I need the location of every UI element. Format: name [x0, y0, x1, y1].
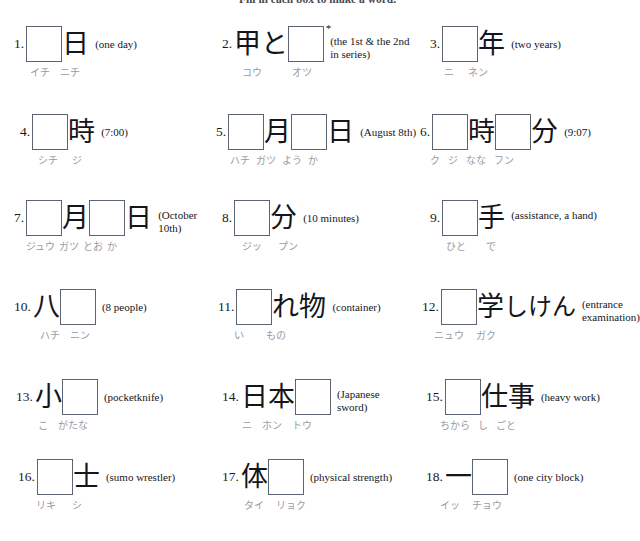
answer-box[interactable]	[442, 200, 478, 236]
answer-box[interactable]	[295, 379, 331, 415]
exercise-cell: 1.日(one day)イチニチ	[0, 14, 204, 80]
answer-box[interactable]	[234, 200, 270, 236]
english-gloss: (two years)	[511, 26, 561, 51]
exercise-line: 10.八(8 people)	[14, 289, 147, 325]
item-number: 1.	[14, 26, 24, 62]
furigana-reading: なな	[466, 155, 486, 167]
furigana-reading: ジ	[448, 155, 458, 167]
answer-box[interactable]	[445, 379, 481, 415]
answer-box[interactable]	[442, 26, 478, 62]
exercise-item: 2.甲と*(the 1st & the 2nd in series)コウオツ	[204, 14, 412, 79]
english-gloss: (9:07)	[564, 114, 591, 139]
exercise-line: 9.手(assistance, a hand)	[430, 200, 597, 236]
exercise-item: 6.時分(9:07)クジななフン	[412, 102, 591, 167]
exercise-line: 1.日(one day)	[14, 26, 137, 62]
printed-character: 一	[445, 459, 472, 495]
glyph-run: 体	[241, 459, 304, 495]
item-number: 9.	[430, 200, 440, 236]
furigana-reading: ガク	[476, 330, 496, 342]
printed-character: 時	[468, 114, 495, 150]
answer-box-slot	[495, 114, 531, 150]
furigana-reading: ホン	[262, 420, 282, 432]
exercise-cell: 15.仕事(heavy work)ちからしごと	[412, 367, 635, 433]
answer-box[interactable]	[288, 26, 324, 62]
exercise-item: 17.体(physical strength)タイリョク	[204, 447, 392, 512]
answer-box-slot	[32, 114, 68, 150]
footnote-asterisk: *	[326, 23, 332, 34]
furigana-reading: ニチ	[60, 67, 80, 79]
reading-row: ジュウガツとおか	[14, 241, 204, 253]
furigana-reading: い	[234, 330, 244, 342]
printed-character: 分	[531, 114, 558, 150]
furigana-reading: フン	[494, 155, 514, 167]
exercise-item: 13.小(pocketknife)こがたな	[0, 367, 163, 432]
answer-box[interactable]	[441, 289, 477, 325]
item-number: 17.	[222, 459, 239, 495]
reading-row: ハチニン	[14, 330, 147, 342]
english-gloss: (heavy work)	[541, 379, 600, 404]
item-number: 2.	[222, 26, 232, 62]
exercise-cell: 11.れ物(container)いもの	[204, 277, 412, 343]
answer-box-slot	[268, 459, 304, 495]
answer-box[interactable]	[495, 114, 531, 150]
item-number: 16.	[18, 459, 35, 495]
answer-box[interactable]	[89, 200, 125, 236]
reading-row: イッチョウ	[426, 500, 584, 512]
exercise-line: 14.日本(Japanese sword)	[222, 379, 412, 415]
answer-box[interactable]	[62, 379, 98, 415]
furigana-reading: ごと	[496, 420, 516, 432]
printed-character: 分	[270, 200, 297, 236]
item-number: 11.	[218, 289, 234, 325]
exercise-line: 2.甲と*(the 1st & the 2nd in series)	[222, 26, 412, 62]
glyph-run: 一	[445, 459, 508, 495]
answer-box-slot	[441, 289, 477, 325]
english-gloss: (sumo wrestler)	[106, 459, 175, 484]
printed-character: 本	[268, 379, 295, 415]
exercise-item: 12.学しけん(entrance examination)ニュウガク	[412, 277, 640, 342]
answer-box[interactable]	[291, 114, 327, 150]
exercise-row: 10.八(8 people)ハチニン11.れ物(container)いもの12.…	[0, 277, 635, 367]
answer-box[interactable]	[26, 200, 62, 236]
answer-box[interactable]	[472, 459, 508, 495]
printed-character: 手	[478, 200, 505, 236]
furigana-reading: ちから	[440, 420, 470, 432]
printed-character: と	[261, 26, 288, 62]
item-number: 15.	[426, 379, 443, 415]
answer-box[interactable]	[60, 289, 96, 325]
instruction-text: Fill in each box to make a word.	[0, 0, 635, 5]
reading-row: シチジ	[20, 155, 128, 167]
glyph-run: 日本	[241, 379, 331, 415]
exercise-row: 4.時(7:00)シチジ5.月日(August 8th)ハチガツようか6.時分(…	[0, 102, 635, 188]
furigana-reading: ガツ	[256, 155, 276, 167]
exercise-item: 7.月日(October 10th)ジュウガツとおか	[0, 188, 204, 253]
reading-row: ハチガツようか	[216, 155, 416, 167]
english-gloss: (one city block)	[514, 459, 584, 484]
answer-box-slot	[432, 114, 468, 150]
answer-box[interactable]	[236, 289, 272, 325]
answer-box[interactable]	[228, 114, 264, 150]
reading-row: こがたな	[16, 420, 163, 432]
answer-box[interactable]	[432, 114, 468, 150]
answer-box[interactable]	[26, 26, 62, 62]
answer-box[interactable]	[37, 459, 73, 495]
printed-character: 月	[264, 114, 291, 150]
glyph-run: 分	[234, 200, 297, 236]
answer-box[interactable]	[268, 459, 304, 495]
item-number: 3.	[430, 26, 440, 62]
answer-box-slot	[60, 289, 96, 325]
item-number: 12.	[422, 289, 439, 325]
furigana-reading: コウ	[242, 67, 262, 79]
answer-box[interactable]	[32, 114, 68, 150]
furigana-reading: か	[107, 241, 117, 253]
exercise-line: 17.体(physical strength)	[222, 459, 392, 495]
printed-character: 年	[478, 26, 505, 62]
english-gloss: (the 1st & the 2nd in series)	[330, 26, 412, 60]
english-gloss: (physical strength)	[310, 459, 392, 484]
exercise-line: 11.れ物(container)	[218, 289, 381, 325]
furigana-reading: リョク	[276, 500, 306, 512]
exercise-cell: 13.小(pocketknife)こがたな	[0, 367, 204, 433]
exercise-line: 8.分(10 minutes)	[222, 200, 359, 236]
printed-character: 八	[33, 289, 60, 325]
answer-box-slot	[442, 200, 478, 236]
exercise-line: 15.仕事(heavy work)	[426, 379, 600, 415]
